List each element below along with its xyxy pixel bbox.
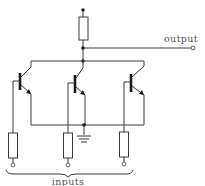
output-label: output (164, 33, 198, 44)
transistor-q3 (124, 61, 144, 125)
output-node (81, 46, 191, 50)
circuit-diagram: output (0, 0, 205, 186)
input-branch-2 (64, 83, 73, 163)
transistor-q2 (68, 61, 85, 125)
pullup-resistor (79, 17, 88, 40)
input-terminal-3[interactable] (122, 162, 126, 166)
input-resistor-3 (120, 132, 129, 157)
inputs-label: inputs (52, 176, 84, 186)
collector-bus (31, 59, 144, 63)
emitter-bus (31, 123, 144, 127)
ground-icon (77, 125, 91, 142)
output-terminal[interactable] (191, 46, 195, 50)
input-terminal-1[interactable] (11, 163, 15, 167)
input-branch-3 (120, 82, 129, 162)
input-resistor-1 (9, 133, 18, 158)
input-branch-1 (9, 81, 18, 163)
input-resistor-2 (64, 133, 73, 158)
supply-node (81, 8, 84, 17)
transistor-q1 (13, 61, 31, 125)
emitter-arrow-icon (139, 90, 144, 95)
input-terminal-2[interactable] (66, 163, 70, 167)
